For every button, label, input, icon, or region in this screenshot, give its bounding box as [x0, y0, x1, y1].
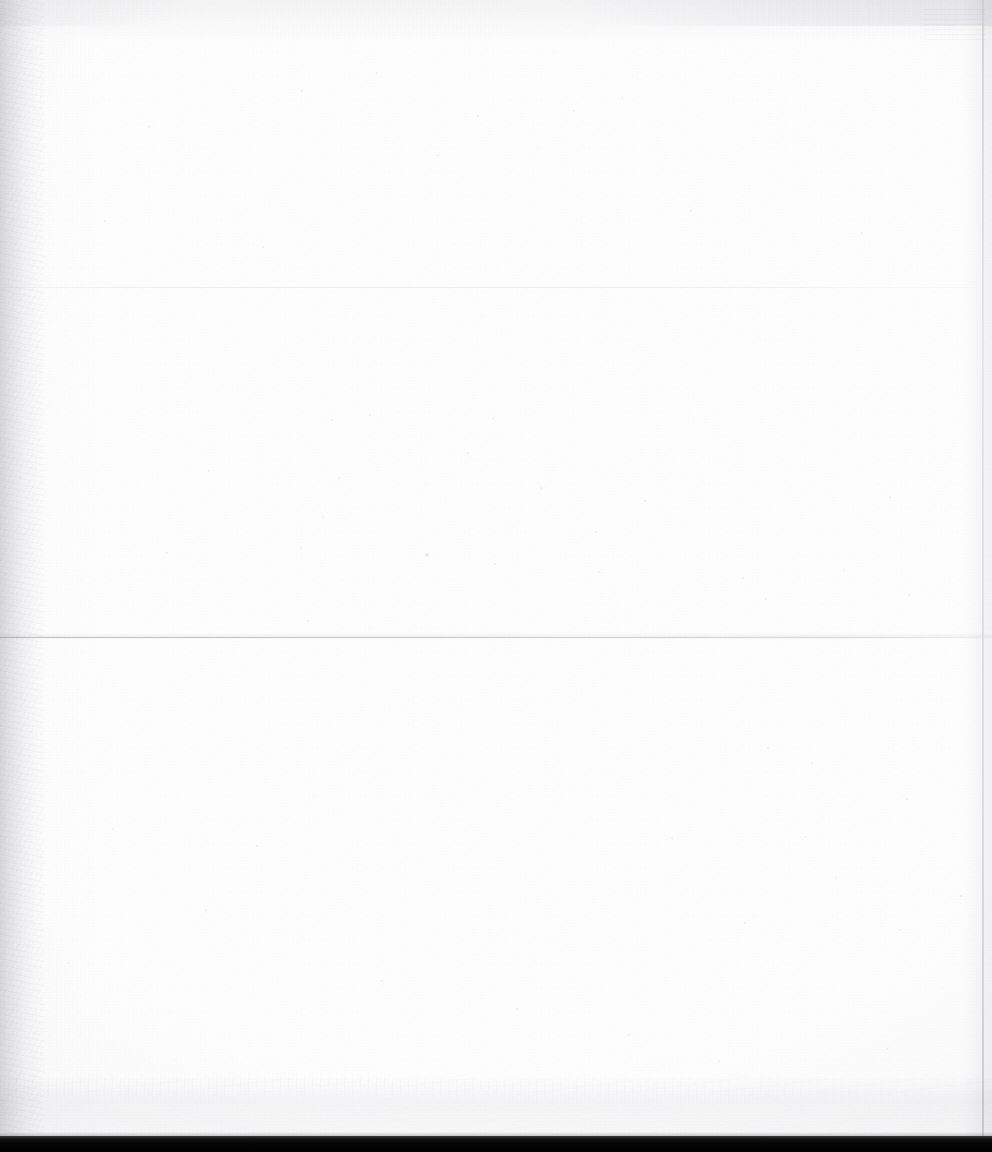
crease-line-main: [0, 637, 992, 638]
dust-speck: [595, 531, 597, 533]
dust-speck: [690, 210, 692, 212]
dust-speck: [621, 97, 623, 99]
dust-speck: [644, 500, 646, 502]
dust-speck: [300, 547, 302, 549]
dust-speck: [331, 419, 333, 421]
crease-line-faint: [0, 287, 992, 288]
dust-speck: [886, 1048, 888, 1050]
dust-speck: [899, 929, 901, 931]
dust-speck: [835, 876, 837, 878]
dust-speck: [166, 552, 168, 554]
dust-speck: [540, 487, 542, 489]
dust-speck: [765, 598, 767, 600]
dust-speck: [492, 417, 494, 419]
dust-speck: [301, 90, 303, 92]
scanner-bed-edge: [0, 1136, 992, 1152]
dust-speck: [843, 570, 845, 572]
dust-speck: [477, 115, 479, 117]
dust-speck: [112, 828, 114, 830]
dust-speck: [671, 837, 673, 839]
dust-speck: [322, 516, 324, 518]
right-page-edge-shadow: [962, 0, 992, 1137]
bottom-texture-band: [0, 1078, 992, 1137]
dust-speck: [718, 1060, 720, 1062]
dust-speck: [889, 496, 891, 498]
dust-speck: [906, 798, 908, 800]
top-edge-mottling: [0, 0, 992, 26]
dust-speck: [256, 845, 258, 847]
dust-speck: [205, 909, 207, 911]
dust-speck: [262, 246, 264, 248]
left-gutter-speckle: [0, 0, 44, 1137]
crease-main-halo: [0, 633, 992, 640]
dust-speck: [494, 563, 496, 565]
dust-speck: [307, 620, 309, 622]
dust-speck: [742, 577, 744, 579]
dust-speck: [67, 962, 69, 964]
dust-speck: [628, 1034, 630, 1036]
dust-speck: [598, 571, 600, 573]
scanned-page-canvas: [0, 0, 992, 1152]
dust-speck: [516, 1008, 518, 1010]
ghost-smudge-icon: [924, 6, 986, 40]
paper-sheet: [0, 0, 992, 1137]
dust-speck: [381, 980, 383, 982]
dust-speck: [908, 594, 910, 596]
paper-tone-overlay: [0, 0, 992, 1137]
dust-speck: [861, 232, 863, 234]
dust-speck: [104, 220, 106, 222]
left-gutter-band: [0, 0, 44, 1137]
dust-speck: [369, 414, 371, 416]
dust-speck: [437, 154, 439, 156]
dust-speck: [425, 553, 429, 557]
paper-grain-texture: [0, 0, 992, 1137]
dust-speck: [805, 836, 807, 838]
dust-speck: [208, 470, 210, 472]
dust-speck: [338, 477, 340, 479]
dust-speck: [811, 762, 813, 764]
right-page-edge: [982, 0, 984, 1137]
dust-speck: [376, 72, 378, 74]
dust-speck: [960, 895, 962, 897]
dust-speck: [767, 747, 769, 749]
dust-speck-layer: [0, 0, 992, 1137]
dust-speck: [573, 110, 575, 112]
dust-speck: [744, 922, 746, 924]
dust-speck: [148, 126, 150, 128]
dust-speck: [467, 452, 469, 454]
